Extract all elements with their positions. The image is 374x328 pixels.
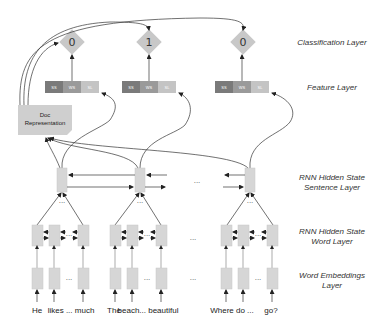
hierarchical-rnn-diagram: 0 1 0 SS WS SL SS WS SL SS WS SL Do xyxy=(0,0,374,328)
embeddings-layer-label-2: Layer xyxy=(322,281,342,290)
ellipsis: ... xyxy=(255,273,262,282)
output-label-3: 0 xyxy=(240,36,247,49)
sentence-rnn-node-2 xyxy=(135,168,145,192)
feature-sl: SL xyxy=(258,85,264,90)
word-he: He xyxy=(32,306,43,315)
ellipsis: ... xyxy=(144,273,151,282)
doc-label-line2: Representation xyxy=(25,120,66,126)
sentence-layer-label-2: Sentence Layer xyxy=(304,183,360,192)
ellipsis: ... xyxy=(255,229,262,238)
ellipsis: ... xyxy=(190,273,197,282)
word-rnn-group-3 xyxy=(221,225,278,246)
output-label-2: 1 xyxy=(146,36,153,49)
classification-layer-label: Classification Layer xyxy=(297,38,367,47)
doc-label-line1: Doc xyxy=(40,112,51,118)
sentence-rnn-node-1 xyxy=(57,168,67,192)
feature-ws: WS xyxy=(146,85,153,90)
feature-sl: SL xyxy=(165,85,171,90)
embedding-group-3 xyxy=(221,268,278,289)
ellipsis: ... xyxy=(247,196,254,205)
feature-bar-2: SS WS SL xyxy=(122,81,176,93)
doc-representation: Doc Representation xyxy=(18,105,72,135)
ellipsis: ... xyxy=(137,196,144,205)
ellipsis: ... xyxy=(190,233,197,242)
output-node-1: 0 xyxy=(59,29,84,54)
sentence-ellipsis: ... xyxy=(194,176,201,185)
embeddings-layer-label-1: Word Embeddings xyxy=(299,271,365,280)
word-layer-label-1: RNN Hidden State xyxy=(299,227,365,236)
feature-ws: WS xyxy=(69,85,76,90)
word-beach-beautiful: beach... beautiful xyxy=(118,306,179,315)
word-rnn-group-1 xyxy=(32,225,89,246)
sentence-layer-label-1: RNN Hidden State xyxy=(299,173,365,182)
sentence-rnn-node-3 xyxy=(245,168,255,192)
embedding-group-1 xyxy=(32,268,89,289)
feature-ss: SS xyxy=(221,85,227,90)
ellipsis: ... xyxy=(66,229,73,238)
feature-ss: SS xyxy=(51,85,57,90)
word-go: go? xyxy=(264,306,278,315)
ellipsis: ... xyxy=(59,196,66,205)
embedding-group-2 xyxy=(110,268,167,289)
feature-bar-3: SS WS SL xyxy=(215,81,269,93)
feature-ss: SS xyxy=(128,85,134,90)
output-label-1: 0 xyxy=(69,36,76,49)
output-node-2: 1 xyxy=(136,29,161,54)
feature-bar-1: SS WS SL xyxy=(45,81,99,93)
word-rnn-group-2 xyxy=(110,225,167,246)
feature-ws: WS xyxy=(239,85,246,90)
ellipsis: ... xyxy=(144,229,151,238)
ellipsis: ... xyxy=(66,273,73,282)
word-where-do: Where do ... xyxy=(210,306,254,315)
word-layer-label-2: Word Layer xyxy=(311,237,353,246)
output-node-3: 0 xyxy=(230,29,255,54)
feature-sl: SL xyxy=(88,85,94,90)
word-likes-much: likes ... much xyxy=(48,306,95,315)
feature-layer-label: Feature Layer xyxy=(307,83,357,92)
